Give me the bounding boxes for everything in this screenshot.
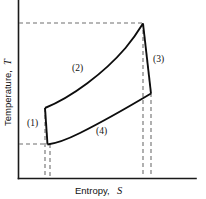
y-axis-title-main: Temperature,	[2, 70, 13, 126]
ts-diagram-canvas: (1) (2) (3) (4) Temperature, T Entropy, …	[0, 0, 206, 199]
process-3-curve	[143, 24, 151, 94]
x-axis-title-symbol: S	[117, 185, 123, 196]
process-4-curve	[48, 94, 152, 145]
ts-diagram-figure: (1) (2) (3) (4) Temperature, T Entropy, …	[0, 0, 206, 199]
y-axis-title: Temperature, T	[2, 58, 13, 126]
y-axis-title-symbol: T	[2, 58, 13, 65]
x-axis-title: Entropy, S	[75, 185, 123, 196]
process-label-3: (3)	[153, 54, 164, 65]
process-label-2: (2)	[72, 63, 83, 74]
process-label-1: (1)	[27, 118, 38, 129]
process-label-4: (4)	[96, 126, 107, 137]
x-axis-title-main: Entropy,	[75, 185, 110, 196]
process-2-curve	[45, 24, 143, 109]
